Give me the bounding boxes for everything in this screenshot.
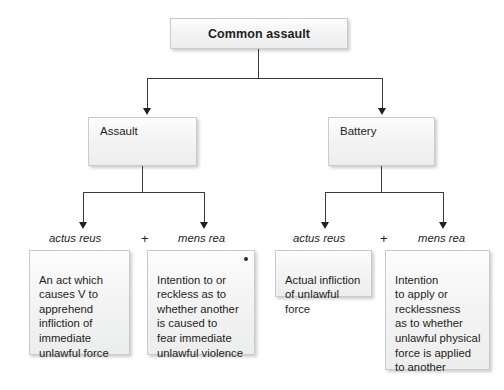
arrowhead-assault-mens-rea xyxy=(200,222,208,229)
node-common-assault[interactable]: Common assault xyxy=(170,18,348,49)
connector-root-bus xyxy=(147,78,383,79)
arrowhead-assault-actus-reus xyxy=(79,222,87,229)
node-battery-mens-rea-definition[interactable]: Intention to apply or recklessness as to… xyxy=(385,250,490,370)
arrowhead-battery-actus-reus xyxy=(321,222,329,229)
connector-battery-bus xyxy=(325,192,443,193)
arrowhead-battery-mens-rea xyxy=(439,222,447,229)
node-label: Battery xyxy=(340,125,376,137)
tag-assault-actus-reus: actus reus xyxy=(49,232,101,244)
connector-assault-to-actus-reus xyxy=(83,192,84,223)
node-assault[interactable]: Assault xyxy=(88,117,197,166)
connector-assault-stem xyxy=(142,166,143,193)
arrowhead-assault xyxy=(143,108,151,115)
definition-text: Intention to apply or recklessness as to… xyxy=(395,274,480,374)
tag-battery-mens-rea: mens rea xyxy=(418,232,465,244)
node-battery-actus-reus-definition[interactable]: Actual infliction of unlawful force xyxy=(275,250,372,297)
connector-battery-stem xyxy=(381,166,382,193)
definition-text: Actual infliction of unlawful force xyxy=(285,274,360,315)
connector-root-to-battery xyxy=(382,78,383,108)
flowchart-canvas: Common assault Assault Battery actus reu… xyxy=(0,0,504,390)
definition-text: An act which causes V to apprehend infli… xyxy=(39,274,109,359)
tag-battery-actus-reus: actus reus xyxy=(293,232,345,244)
tag-assault-mens-rea: mens rea xyxy=(178,232,225,244)
connector-assault-bus xyxy=(83,192,204,193)
node-label: Common assault xyxy=(208,27,310,41)
node-label: Assault xyxy=(100,125,138,137)
connector-assault-to-mens-rea xyxy=(204,192,205,223)
connector-root-stem xyxy=(258,49,259,79)
scan-speck xyxy=(244,257,248,261)
node-battery[interactable]: Battery xyxy=(328,117,435,166)
definition-text: Intention to or reckless as to whether a… xyxy=(157,274,243,359)
connector-root-to-assault xyxy=(147,78,148,108)
connector-battery-to-actus-reus xyxy=(325,192,326,223)
plus-sign-assault: + xyxy=(141,231,149,246)
plus-sign-battery: + xyxy=(380,231,388,246)
arrowhead-battery xyxy=(378,108,386,115)
node-assault-actus-reus-definition[interactable]: An act which causes V to apprehend infli… xyxy=(29,250,130,355)
connector-battery-to-mens-rea xyxy=(443,192,444,223)
node-assault-mens-rea-definition[interactable]: Intention to or reckless as to whether a… xyxy=(147,250,255,355)
